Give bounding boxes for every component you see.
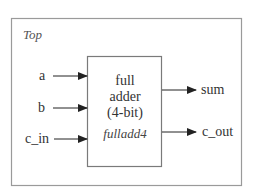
input-label-a: a [39, 69, 45, 83]
output-label-sum: sum [201, 83, 224, 97]
output-label-c-out: c_out [202, 125, 233, 139]
block-label: full adder (4-bit) [88, 73, 162, 121]
block-line-3: (4-bit) [88, 105, 162, 121]
module-name: fulladd4 [88, 127, 162, 140]
input-label-b: b [38, 101, 45, 115]
block-line-2: adder [88, 89, 162, 105]
container-title: Top [23, 28, 42, 41]
input-label-c-in: c_in [25, 132, 49, 146]
block-line-1: full [88, 73, 162, 89]
